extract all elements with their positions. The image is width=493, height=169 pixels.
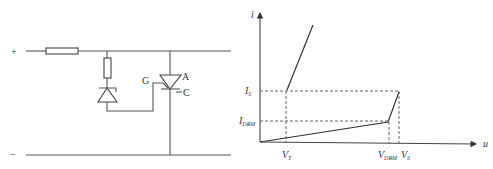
zener-diode-icon (98, 88, 117, 102)
y-axis-label: i (251, 9, 254, 20)
gate-label: G (142, 75, 149, 86)
vdrm-label: VDRM (378, 149, 398, 161)
negative-terminal-label: − (10, 149, 16, 160)
gate-trigger-wire (107, 83, 163, 111)
x-axis (260, 142, 476, 144)
crowbar-circuit: + − G A C (10, 46, 231, 160)
on-state-curve (287, 25, 313, 90)
thyristor-icon (160, 75, 181, 89)
iv-characteristic-graph: i u IS IDRM VT VDRM VS (238, 9, 488, 161)
is-label: IS (244, 85, 251, 97)
cathode-label: C (183, 87, 190, 98)
diagram-canvas: + − G A C (0, 0, 493, 169)
anode-label: A (182, 71, 190, 82)
vs-label: VS (401, 149, 410, 161)
fuse-icon (46, 48, 78, 54)
positive-terminal-label: + (11, 46, 17, 57)
off-state-curve (260, 92, 399, 142)
idrm-label: IDRM (238, 115, 256, 127)
resistor-icon (104, 58, 111, 78)
vt-label: VT (282, 149, 292, 161)
x-axis-label: u (483, 138, 488, 149)
